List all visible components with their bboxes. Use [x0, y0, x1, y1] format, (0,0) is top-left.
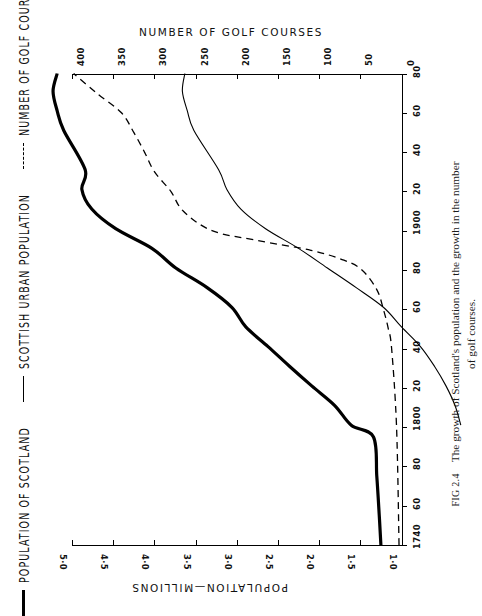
figure-caption: FIG 2.4 The growth of Scotland's populat… [447, 60, 479, 608]
series-line [182, 74, 460, 426]
figure-container: POPULATION OF SCOTLAND SCOTTISH URBAN PO… [0, 0, 482, 616]
series-line [53, 74, 381, 546]
figure-caption-line1: The growth of Scotland's population and … [449, 161, 461, 462]
figure-number: FIG 2.4 [450, 473, 461, 506]
series-line [74, 74, 399, 546]
chart-curves [0, 0, 482, 616]
figure-caption-line2: of golf courses. [463, 60, 479, 608]
